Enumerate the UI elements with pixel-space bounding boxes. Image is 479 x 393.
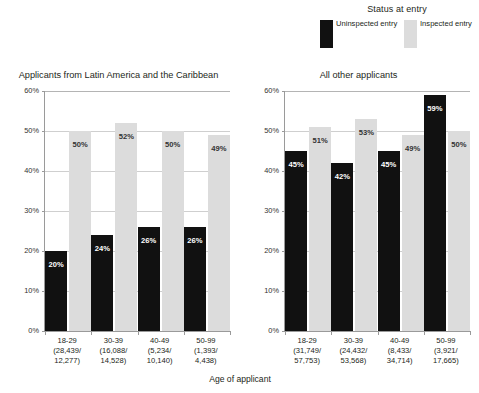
bar-value-label: 26% — [184, 236, 206, 245]
x-group-label-50-99: 50-99(1,393/ 4,438) — [178, 336, 234, 366]
x-age-range: 50-99 — [178, 336, 234, 346]
bar-value-label: 26% — [138, 236, 160, 245]
bar-value-label: 52% — [115, 132, 137, 141]
x-tick-mark — [138, 331, 139, 335]
chart-legend: Status at entry Uninspected entry Inspec… — [318, 4, 476, 56]
y-tick-label: 20% — [253, 246, 279, 255]
bar-uninspected-50-99: 59% — [424, 95, 446, 331]
y-tick-label: 10% — [253, 286, 279, 295]
legend-swatch-inspected-icon — [404, 20, 417, 48]
y-tick-mark — [282, 91, 285, 92]
bar-inspected-18-29: 50% — [69, 131, 91, 331]
y-tick-mark — [42, 131, 45, 132]
bar-value-label: 45% — [378, 160, 400, 169]
bar-inspected-40-49: 49% — [402, 135, 424, 331]
panel-title: Applicants from Latin America and the Ca… — [8, 70, 229, 80]
y-tick-label: 60% — [13, 86, 39, 95]
y-tick-label: 0% — [13, 326, 39, 335]
bar-uninspected-30-39: 42% — [331, 163, 353, 331]
y-tick-label: 60% — [253, 86, 279, 95]
plot-area: 60%50%40%30%20%10%0%45%51%42%53%45%49%59… — [284, 91, 470, 332]
bar-value-label: 20% — [45, 260, 67, 269]
legend-label-inspected: Inspected entry — [420, 19, 479, 30]
legend-label-uninspected: Uninspected entry — [336, 19, 412, 30]
x-tick-mark — [91, 331, 92, 335]
bar-value-label: 50% — [448, 140, 470, 149]
y-tick-label: 0% — [253, 326, 279, 335]
y-tick-label: 20% — [13, 246, 39, 255]
bar-inspected-50-99: 49% — [208, 135, 230, 331]
y-tick-label: 40% — [253, 166, 279, 175]
x-tick-mark — [424, 331, 425, 335]
bar-inspected-18-29: 51% — [309, 127, 331, 331]
x-tick-mark — [331, 331, 332, 335]
y-tick-mark — [42, 91, 45, 92]
gridline — [45, 91, 230, 92]
gridline — [285, 91, 470, 92]
x-tick-mark — [184, 331, 185, 335]
plot-area: 60%50%40%30%20%10%0%20%50%24%52%26%50%26… — [44, 91, 230, 332]
bar-value-label: 50% — [162, 140, 184, 149]
bar-uninspected-40-49: 45% — [378, 151, 400, 331]
x-tick-mark — [45, 331, 46, 335]
x-tick-mark — [230, 331, 231, 335]
x-tick-mark — [470, 331, 471, 335]
x-group-label-50-99: 50-99(3,921/ 17,665) — [418, 336, 474, 366]
bar-value-label: 59% — [424, 104, 446, 113]
bar-uninspected-40-49: 26% — [138, 227, 160, 331]
bar-inspected-50-99: 50% — [448, 131, 470, 331]
x-age-range: 50-99 — [418, 336, 474, 346]
bar-value-label: 45% — [285, 160, 307, 169]
bar-value-label: 49% — [402, 144, 424, 153]
bar-value-label: 42% — [331, 172, 353, 181]
chart-figure: Status at entry Uninspected entry Inspec… — [0, 0, 479, 393]
y-tick-mark — [42, 171, 45, 172]
bar-uninspected-50-99: 26% — [184, 227, 206, 331]
x-group-counts: (3,921/ 17,665) — [418, 346, 474, 366]
legend-swatch-uninspected-icon — [320, 20, 333, 48]
y-tick-label: 10% — [13, 286, 39, 295]
bar-value-label: 53% — [355, 128, 377, 137]
bar-value-label: 50% — [69, 140, 91, 149]
x-group-counts: (1,393/ 4,438) — [178, 346, 234, 366]
x-axis-title: Age of applicant — [160, 374, 320, 384]
bar-inspected-40-49: 50% — [162, 131, 184, 331]
y-tick-label: 50% — [13, 126, 39, 135]
y-tick-label: 40% — [13, 166, 39, 175]
bar-value-label: 24% — [91, 244, 113, 253]
panel-title: All other applicants — [248, 70, 469, 80]
y-tick-label: 30% — [253, 206, 279, 215]
bar-inspected-30-39: 52% — [115, 123, 137, 331]
bar-uninspected-18-29: 20% — [45, 251, 67, 331]
x-tick-mark — [378, 331, 379, 335]
y-tick-label: 50% — [253, 126, 279, 135]
bar-value-label: 51% — [309, 136, 331, 145]
y-tick-label: 30% — [13, 206, 39, 215]
bar-value-label: 49% — [208, 144, 230, 153]
legend-title: Status at entry — [318, 4, 476, 14]
bar-uninspected-18-29: 45% — [285, 151, 307, 331]
bar-uninspected-30-39: 24% — [91, 235, 113, 331]
bar-inspected-30-39: 53% — [355, 119, 377, 331]
y-tick-mark — [282, 131, 285, 132]
y-tick-mark — [42, 211, 45, 212]
x-tick-mark — [285, 331, 286, 335]
